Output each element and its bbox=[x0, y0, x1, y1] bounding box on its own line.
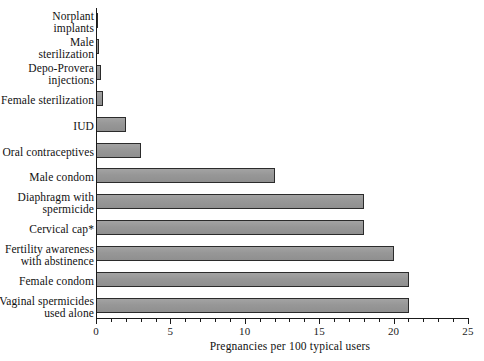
x-tick-major bbox=[394, 318, 395, 324]
category-label-male-condom: Male condom bbox=[0, 172, 94, 184]
x-tick-minor bbox=[289, 318, 290, 322]
plot-area bbox=[96, 8, 468, 318]
bar-row bbox=[96, 8, 468, 34]
x-tick-minor bbox=[126, 318, 127, 322]
x-tick-minor bbox=[141, 318, 142, 322]
bar-row bbox=[96, 137, 468, 163]
bar-row bbox=[96, 241, 468, 267]
category-label-norplant-implants: Norplant implants bbox=[0, 11, 94, 34]
x-tick-minor bbox=[453, 318, 454, 322]
category-label-iud: IUD bbox=[0, 121, 94, 133]
bar-iud bbox=[96, 117, 126, 132]
x-axis-title: Pregnancies per 100 typical users bbox=[210, 340, 371, 352]
bar-row bbox=[96, 292, 468, 318]
x-tick-minor bbox=[200, 318, 201, 322]
x-tick-minor bbox=[379, 318, 380, 322]
x-tick-major bbox=[170, 318, 171, 324]
x-tick-minor bbox=[349, 318, 350, 322]
bar-row bbox=[96, 163, 468, 189]
bar-cervical-cap bbox=[96, 220, 364, 235]
x-tick-minor bbox=[275, 318, 276, 322]
bar-diaphragm-with-spermicide bbox=[96, 194, 364, 209]
bar-vaginal-spermicides-used-alone bbox=[96, 298, 409, 313]
bar-row bbox=[96, 111, 468, 137]
category-label-cervical-cap: Cervical cap* bbox=[0, 224, 94, 236]
x-tick-minor bbox=[364, 318, 365, 322]
x-axis-title-wrapper: Pregnancies per 100 typical users bbox=[0, 340, 484, 352]
category-label-male-sterilization: Male sterilization bbox=[0, 37, 94, 60]
category-label-fertility-awareness-with-abstinence: Fertility awareness with abstinence bbox=[0, 244, 94, 267]
category-label-diaphragm-with-spermicide: Diaphragm with spermicide bbox=[0, 192, 94, 215]
x-tick-minor bbox=[230, 318, 231, 322]
bar-chart: Norplant implants Male sterilization Dep… bbox=[0, 0, 484, 361]
category-label-oral-contraceptives: Oral contraceptives bbox=[0, 147, 94, 159]
x-tick-minor bbox=[215, 318, 216, 322]
category-label-vaginal-spermicides-used-alone: Vaginal spermicides used alone bbox=[0, 296, 94, 319]
bar-row bbox=[96, 60, 468, 86]
x-tick-minor bbox=[111, 318, 112, 322]
x-tick-label-20: 20 bbox=[388, 325, 399, 337]
bar-female-sterilization bbox=[96, 91, 103, 106]
x-tick-label-15: 15 bbox=[313, 325, 324, 337]
x-tick-major bbox=[245, 318, 246, 324]
x-tick-minor bbox=[438, 318, 439, 322]
bar-oral-contraceptives bbox=[96, 143, 141, 158]
x-tick-major bbox=[319, 318, 320, 324]
bar-row bbox=[96, 86, 468, 112]
x-tick-minor bbox=[408, 318, 409, 322]
bar-female-condom bbox=[96, 272, 409, 287]
x-tick-minor bbox=[334, 318, 335, 322]
x-axis-line bbox=[96, 318, 469, 319]
x-tick-minor bbox=[304, 318, 305, 322]
x-tick-label-0: 0 bbox=[93, 325, 99, 337]
category-label-depo-provera-injections: Depo-Provera injections bbox=[0, 63, 94, 86]
x-tick-minor bbox=[260, 318, 261, 322]
category-label-female-sterilization: Female sterilization bbox=[0, 95, 94, 107]
bar-row bbox=[96, 215, 468, 241]
x-tick-minor bbox=[423, 318, 424, 322]
bar-row bbox=[96, 189, 468, 215]
bar-row bbox=[96, 34, 468, 60]
x-tick-major bbox=[468, 318, 469, 324]
x-tick-minor bbox=[185, 318, 186, 322]
bar-row bbox=[96, 266, 468, 292]
bar-male-condom bbox=[96, 168, 275, 183]
bar-fertility-awareness-with-abstinence bbox=[96, 246, 394, 261]
y-axis-line bbox=[96, 8, 97, 318]
category-label-female-condom: Female condom bbox=[0, 276, 94, 288]
x-tick-minor bbox=[156, 318, 157, 322]
x-tick-label-10: 10 bbox=[239, 325, 250, 337]
x-tick-label-5: 5 bbox=[168, 325, 174, 337]
x-tick-major bbox=[96, 318, 97, 324]
x-tick-label-25: 25 bbox=[462, 325, 473, 337]
